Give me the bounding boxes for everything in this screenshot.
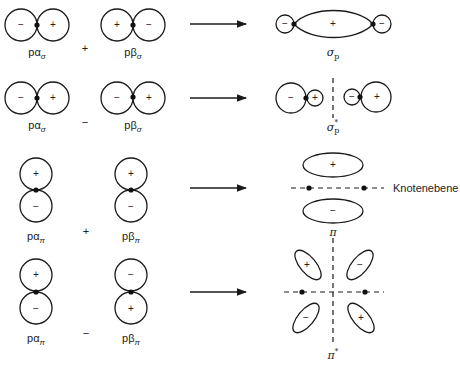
label-p-alpha-sigma: pασ (28, 119, 46, 134)
nucleus-dot (357, 94, 362, 99)
nucleus-dot (128, 187, 133, 192)
sign-plus: + (312, 92, 318, 103)
nucleus-dot (306, 185, 311, 190)
label-p-alpha-pi: pαπ (27, 230, 45, 245)
sign-minus: − (128, 201, 134, 212)
orbital-p-alpha-sigma: − + (5, 82, 69, 114)
orbital-pi: + − (291, 153, 384, 223)
sign-plus: + (50, 19, 56, 30)
sign-plus: + (330, 18, 336, 29)
sign-plus: + (128, 303, 134, 314)
sign-plus: + (114, 19, 120, 30)
sign-minus: − (379, 18, 385, 29)
sign-plus: + (33, 168, 39, 179)
operator-plus: + (82, 42, 88, 54)
nucleus-dot (33, 187, 38, 192)
sign-minus: − (288, 92, 294, 103)
sign-minus: − (128, 269, 134, 280)
mo-diagram: − + pασ + + − pβσ − + − σp (0, 0, 460, 365)
nucleus-dot (370, 21, 375, 26)
sign-minus: − (33, 201, 39, 212)
orbital-p-beta-pi: + − (115, 158, 147, 222)
nucleus-dot (34, 22, 39, 27)
orbital-sigma-p-star: − + − + (276, 78, 391, 118)
orbital-p-beta-sigma: + − (101, 9, 165, 41)
operator-plus: + (83, 225, 89, 237)
nucleus-dot (130, 94, 135, 99)
orbital-p-alpha-pi: + − (20, 259, 52, 324)
sign-minus: − (330, 205, 336, 216)
row-pi-bonding: + − pαπ + + − pβπ + − Knotenebene π (20, 153, 458, 245)
sign-plus: + (330, 159, 336, 170)
nucleus-dot (303, 95, 308, 100)
nucleus-dot (130, 22, 135, 27)
orbital-pi-star: + − − + (284, 238, 384, 345)
operator-minus: − (83, 327, 89, 339)
nucleus-dot (128, 289, 133, 294)
sign-minus: − (18, 92, 24, 103)
label-sigma-p-star: σ*p (327, 118, 340, 135)
label-p-beta-sigma: pβσ (124, 119, 142, 134)
sign-minus: − (18, 19, 24, 30)
label-pi-star: π* (326, 347, 338, 362)
orbital-p-beta-pi: − + (115, 259, 147, 324)
sign-plus: + (374, 91, 380, 102)
label-pi: π (328, 226, 337, 239)
sign-minus: − (349, 91, 355, 102)
nucleus-dot (361, 185, 366, 190)
sign-minus: − (114, 92, 120, 103)
sign-plus: + (304, 259, 310, 270)
sign-plus: + (358, 312, 364, 323)
orbital-p-alpha-pi: + − (20, 158, 52, 222)
orbital-p-alpha-sigma: − + (5, 9, 69, 41)
row-pi-antibonding: + − pαπ − − + pβπ + − − + π* (20, 238, 384, 362)
orbital-sigma-p: − + − (276, 11, 391, 38)
sign-minus: − (282, 18, 288, 29)
nucleus-dot (299, 289, 304, 294)
sign-minus: − (146, 19, 152, 30)
label-knotenebene: Knotenebene (393, 182, 458, 194)
label-p-beta-sigma: pβσ (124, 46, 142, 61)
sign-minus: − (303, 312, 309, 323)
row-sigma-bonding: − + pασ + + − pβσ − + − σp (5, 9, 391, 61)
sign-plus: + (33, 269, 39, 280)
nucleus-dot (362, 289, 367, 294)
label-p-beta-pi: pβπ (122, 230, 140, 245)
row-sigma-antibonding: − + pασ − − + pβσ − + − + σ*p (5, 78, 391, 135)
label-sigma-p: σp (327, 46, 340, 61)
operator-minus: − (82, 116, 88, 128)
label-p-alpha-pi: pαπ (27, 332, 45, 347)
sign-minus: − (33, 303, 39, 314)
nucleus-dot (291, 21, 296, 26)
sign-minus: − (357, 259, 363, 270)
sign-plus: + (146, 92, 152, 103)
label-p-alpha-sigma: pασ (28, 46, 46, 61)
sign-plus: + (128, 168, 134, 179)
nucleus-dot (33, 289, 38, 294)
sign-plus: + (50, 92, 56, 103)
label-p-beta-pi: pβπ (122, 332, 140, 347)
nucleus-dot (34, 95, 39, 100)
orbital-p-beta-sigma: − + (101, 82, 165, 114)
